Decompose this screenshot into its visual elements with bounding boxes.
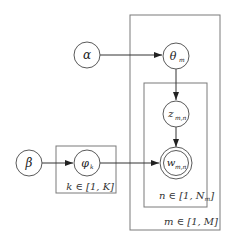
node-theta: θ m (163, 43, 189, 69)
theta-subscript: m (179, 56, 185, 63)
node-alpha: α (74, 42, 100, 68)
z-subscript: m,n (175, 114, 187, 121)
plate-m-label: m ∈ [1, M] (164, 216, 218, 227)
z-label: z (167, 108, 174, 119)
plate-n-label-end: ] (209, 190, 214, 201)
alpha-label: α (83, 48, 91, 62)
beta-label: β (25, 156, 33, 170)
node-w-observed: w m,n (160, 147, 192, 179)
w-subscript: m,n (175, 163, 187, 170)
diagram-svg: α θ m z m,n w m,n β φ k k ∈ [1, K] n ∈ [… (0, 0, 231, 242)
node-z: z m,n (163, 101, 189, 127)
plate-n-label-main: n ∈ [1, N (159, 190, 206, 201)
phi-label: φ (81, 157, 89, 170)
theta-label: θ (170, 50, 177, 63)
phi-subscript: k (90, 163, 94, 170)
plate-n-label: n ∈ [1, Nm] (159, 190, 214, 202)
node-beta: β (16, 150, 42, 176)
node-phi: φ k (74, 150, 100, 176)
plate-diagram: α θ m z m,n w m,n β φ k k ∈ [1, K] n ∈ [… (0, 0, 231, 242)
plate-k-label: k ∈ [1, K] (66, 181, 114, 192)
